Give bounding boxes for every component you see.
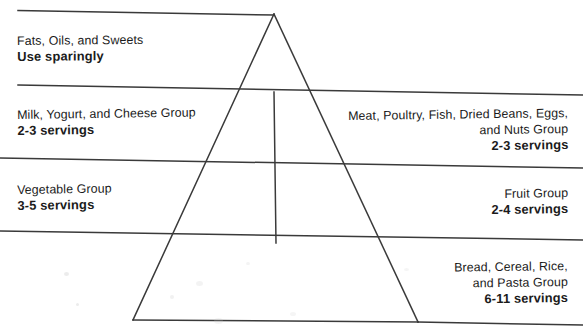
tier-servings: 2-4 servings bbox=[491, 201, 568, 219]
tier-group-name: Milk, Yogurt, and Cheese Group bbox=[17, 105, 196, 124]
tier-label-bread: Bread, Cereal, Rice, and Pasta Group 6-1… bbox=[454, 258, 568, 309]
tier-servings: 3-5 servings bbox=[17, 197, 112, 215]
tier-label-meat: Meat, Poultry, Fish, Dried Beans, Eggs, … bbox=[348, 105, 569, 157]
pyramid-base-edge bbox=[133, 320, 418, 322]
tier-group-name: Fruit Group bbox=[491, 185, 568, 202]
tier-rule-3 bbox=[0, 158, 583, 168]
tier-label-vegetable: Vegetable Group 3-5 servings bbox=[17, 181, 112, 215]
tier-group-name-line1: Bread, Cereal, Rice, bbox=[454, 258, 568, 276]
tier-group-name: Fats, Oils, and Sweets bbox=[17, 32, 143, 49]
pyramid-center-divider bbox=[274, 92, 276, 243]
tier-rule-1 bbox=[18, 11, 274, 16]
pyramid-left-edge bbox=[133, 14, 274, 320]
tier-servings: 6-11 servings bbox=[455, 290, 569, 308]
tier-label-milk: Milk, Yogurt, and Cheese Group 2-3 servi… bbox=[17, 105, 196, 140]
tier-label-fats: Fats, Oils, and Sweets Use sparingly bbox=[17, 32, 143, 66]
tier-group-name: Vegetable Group bbox=[17, 181, 112, 199]
tier-servings: Use sparingly bbox=[17, 48, 143, 66]
tier-rule-2 bbox=[18, 85, 583, 95]
tier-rule-4 bbox=[0, 231, 583, 240]
tier-label-fruit: Fruit Group 2-4 servings bbox=[491, 185, 568, 219]
pyramid-right-edge bbox=[274, 14, 418, 322]
tier-group-name-line2: and Pasta Group bbox=[455, 274, 569, 292]
food-pyramid-diagram: Fats, Oils, and Sweets Use sparingly Mil… bbox=[0, 0, 583, 335]
baseline-rule bbox=[418, 322, 583, 325]
tier-servings: 2-3 servings bbox=[17, 121, 196, 140]
tier-servings: 2-3 servings bbox=[349, 137, 569, 157]
